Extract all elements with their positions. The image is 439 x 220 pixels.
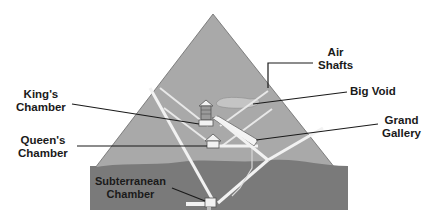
label-kings-chamber: King's Chamber xyxy=(16,88,66,114)
label-subterranean-chamber: Subterranean Chamber xyxy=(95,175,166,201)
label-grand-gallery: Grand Gallery xyxy=(382,114,421,140)
kings-chamber xyxy=(199,100,213,126)
pyramid-diagram: Air Shafts Big Void King's Chamber Queen… xyxy=(0,0,439,220)
label-big-void: Big Void xyxy=(350,85,396,98)
label-queens-chamber: Queen's Chamber xyxy=(18,134,68,160)
label-air-shafts: Air Shafts xyxy=(318,46,353,72)
